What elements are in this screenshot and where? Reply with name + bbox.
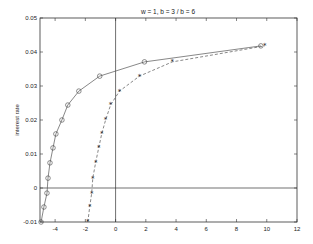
series-b3-line <box>41 46 261 222</box>
axes-frame <box>40 18 297 222</box>
star-marker: * <box>171 58 175 66</box>
x-tick-label: 6 <box>205 226 209 232</box>
star-marker: * <box>263 42 267 50</box>
y-tick-label: 0.02 <box>25 117 37 123</box>
x-tick-label: -4 <box>52 226 58 232</box>
star-marker: * <box>138 73 142 81</box>
y-tick-label: 0 <box>34 185 38 191</box>
chart: w = 1, b = 3 / b = 6 interest rate -4-20… <box>0 0 313 244</box>
y-tick-label: 0.05 <box>25 15 37 21</box>
y-axis-label: interest rate <box>14 103 20 135</box>
star-marker: * <box>88 203 92 211</box>
star-marker: * <box>100 130 104 138</box>
x-tick-label: 12 <box>294 226 301 232</box>
y-tick-label: 0.01 <box>25 151 37 157</box>
x-tick-label: 8 <box>235 226 239 232</box>
chart-title: w = 1, b = 3 / b = 6 <box>140 8 195 15</box>
star-marker: * <box>86 218 90 226</box>
star-marker: * <box>104 116 108 124</box>
series-b6-line <box>88 46 265 222</box>
plot-area: -4-2024681012-0.0100.010.020.030.040.05*… <box>23 15 301 232</box>
y-tick-label: -0.01 <box>23 219 37 225</box>
star-marker: * <box>109 101 113 109</box>
y-tick-label: 0.03 <box>25 83 37 89</box>
x-tick-label: 2 <box>144 226 148 232</box>
star-marker: * <box>97 144 101 152</box>
star-marker: * <box>90 190 94 198</box>
x-tick-label: 4 <box>174 226 178 232</box>
x-tick-label: -2 <box>83 226 89 232</box>
x-tick-label: 0 <box>114 226 118 232</box>
star-marker: * <box>91 175 95 183</box>
star-marker: * <box>94 159 98 167</box>
y-tick-label: 0.04 <box>25 49 37 55</box>
x-tick-label: 10 <box>263 226 270 232</box>
star-marker: * <box>118 88 122 96</box>
